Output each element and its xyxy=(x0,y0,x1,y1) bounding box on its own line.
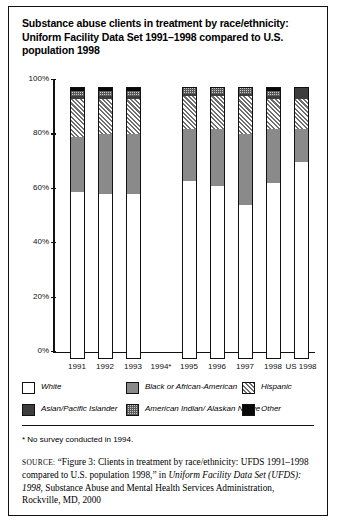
bar-slot xyxy=(70,87,85,359)
bar-segment-white xyxy=(211,186,224,357)
bar-segment-black-or-african-american xyxy=(99,134,112,194)
bar-segment-hispanic xyxy=(239,96,252,134)
y-axis-tick xyxy=(51,188,56,189)
legend-row: White Black or African-American Hispanic xyxy=(22,381,314,403)
bar-slot xyxy=(126,87,141,359)
stacked-bar[interactable] xyxy=(182,87,197,359)
bar-segment-american-indian-alaskan-native xyxy=(99,91,112,96)
bar-segment-hispanic xyxy=(127,99,140,134)
bar-segment-american-indian-alaskan-native xyxy=(183,88,196,93)
bar-segment-asian-pacific-islander xyxy=(239,94,252,97)
bar-segment-black-or-african-american xyxy=(127,134,140,194)
bar-segment-hispanic xyxy=(295,99,308,129)
bar-segment-black-or-african-american xyxy=(239,134,252,205)
bar-segment-asian-pacific-islander xyxy=(99,96,112,99)
stacked-bar[interactable] xyxy=(98,87,113,359)
y-axis-tick xyxy=(51,79,56,80)
bar-segment-black-or-african-american xyxy=(267,129,280,183)
bar-segment-other xyxy=(239,87,252,89)
bar-segment-white xyxy=(99,194,112,357)
bar-segment-white xyxy=(71,192,84,358)
figure-title: Substance abuse clients in treatment by … xyxy=(22,17,312,58)
bar-segment-white xyxy=(183,181,196,358)
stacked-bar[interactable] xyxy=(70,87,85,359)
bar-segment-other xyxy=(127,87,140,91)
bar-segment-american-indian-alaskan-native xyxy=(267,91,280,96)
bar-segment-black-or-african-american xyxy=(71,137,84,191)
bar-segment-other xyxy=(183,87,196,89)
stacked-bar[interactable] xyxy=(126,87,141,359)
bar-segment-black-or-african-american xyxy=(183,129,196,181)
bar-segment-asian-pacific-islander xyxy=(211,94,224,97)
bar-segment-american-indian-alaskan-native xyxy=(239,88,252,93)
legend-swatch-other-icon xyxy=(242,404,255,416)
bar-segment-black-or-african-american xyxy=(295,129,308,162)
chart-plot-area: 0%20%40%60%80%100% 1991199219931994*1995… xyxy=(53,79,315,360)
bar-segment-other xyxy=(211,87,224,89)
y-axis-tick-label: 40% xyxy=(9,238,49,246)
legend-label: White xyxy=(41,382,61,392)
bar-segment-asian-pacific-islander xyxy=(295,88,308,99)
y-axis-tick-label: 80% xyxy=(9,129,49,137)
bar-segment-american-indian-alaskan-native xyxy=(211,88,224,93)
source-text-part2: , Substance Abuse and Mental Health Serv… xyxy=(22,483,274,505)
stacked-bar[interactable] xyxy=(238,87,253,359)
source-label: SOURCE: xyxy=(22,458,55,467)
y-axis-tick-label: 100% xyxy=(9,75,49,83)
legend-swatch-hispanic-icon xyxy=(242,382,255,394)
bar-segment-other xyxy=(99,87,112,91)
y-axis-tick-label: 60% xyxy=(9,184,49,192)
legend-label: Asian/Pacific Islander xyxy=(41,404,117,414)
legend-swatch-american-indian-icon xyxy=(126,404,139,416)
legend-label: Hispanic xyxy=(261,382,292,392)
bar-segment-other xyxy=(267,87,280,91)
bar-segment-asian-pacific-islander xyxy=(127,96,140,99)
bar-slot xyxy=(238,87,253,359)
bar-segment-hispanic xyxy=(99,99,112,134)
bar-segment-hispanic xyxy=(267,99,280,129)
bar-segment-white xyxy=(127,194,140,357)
bar-segment-white xyxy=(295,162,308,358)
legend-swatch-white-icon xyxy=(22,382,35,394)
legend-swatch-asian-pacific-islander-icon xyxy=(22,404,35,416)
bar-segment-hispanic xyxy=(71,99,84,137)
y-axis-tick xyxy=(51,351,56,352)
legend-row: Asian/Pacific Islander American Indian/ … xyxy=(22,403,314,425)
y-axis-tick-label: 20% xyxy=(9,293,49,301)
bar-segment-american-indian-alaskan-native xyxy=(295,87,308,89)
chart-legend: White Black or African-American Hispanic… xyxy=(22,381,314,425)
bar-slot xyxy=(98,87,113,359)
stacked-bar[interactable] xyxy=(210,87,225,359)
bar-slot xyxy=(210,87,225,359)
bar-slot xyxy=(182,87,197,359)
y-axis-tick xyxy=(51,242,56,243)
figure-footnote: * No survey conducted in 1994. xyxy=(22,435,307,445)
bar-segment-hispanic xyxy=(183,96,196,129)
bar-segment-american-indian-alaskan-native xyxy=(127,91,140,96)
y-axis-tick xyxy=(51,133,56,134)
stacked-bar[interactable] xyxy=(294,87,309,359)
y-axis-tick xyxy=(51,297,56,298)
bar-slot xyxy=(266,87,281,359)
y-axis-tick-label: 0% xyxy=(9,347,49,355)
figure-source: SOURCE: “Figure 3: Clients in treatment … xyxy=(22,456,310,507)
bar-slot xyxy=(154,87,169,359)
bar-segment-hispanic xyxy=(211,96,224,129)
figure-container: Substance abuse clients in treatment by … xyxy=(8,6,328,516)
legend-divider xyxy=(22,425,314,426)
bar-segment-white xyxy=(267,183,280,357)
stacked-bar[interactable] xyxy=(266,87,281,359)
bar-segment-asian-pacific-islander xyxy=(71,96,84,99)
legend-swatch-black-icon xyxy=(126,382,139,394)
bar-segment-other xyxy=(71,87,84,91)
y-axis-line xyxy=(53,79,55,353)
x-axis-label: US 1998 xyxy=(275,363,327,371)
legend-label: Other xyxy=(261,404,281,414)
bar-segment-american-indian-alaskan-native xyxy=(71,91,84,96)
bar-segment-white xyxy=(239,205,252,357)
bar-slot xyxy=(294,87,309,359)
bar-segment-asian-pacific-islander xyxy=(183,94,196,97)
bar-segment-asian-pacific-islander xyxy=(267,96,280,99)
legend-label: Black or African-American xyxy=(145,382,237,392)
bar-segment-black-or-african-american xyxy=(211,129,224,186)
